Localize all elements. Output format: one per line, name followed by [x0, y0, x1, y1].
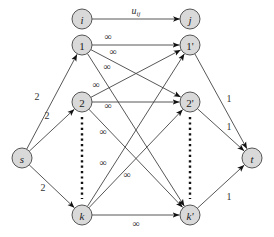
node-label: 2: [79, 97, 85, 109]
edge-label-s-2: 2: [45, 110, 50, 121]
node-label: 1: [79, 40, 85, 52]
edge-1p-t: [195, 54, 247, 149]
edges: 222∞∞∞∞∞∞∞∞∞111: [27, 31, 247, 229]
node-label: k': [186, 210, 194, 222]
edge-label-s-k: 2: [41, 182, 46, 193]
nodes: ij12k1'2'k'st: [12, 9, 262, 225]
edge-label-2-1p: ∞: [92, 79, 99, 90]
edge-s-2: [29, 109, 74, 151]
node-s: s: [12, 148, 32, 168]
edge-label-k-kp: ∞: [132, 218, 139, 229]
node-label: s: [20, 153, 24, 165]
legend-edge: uij: [92, 5, 180, 19]
edge-label-1-1p: ∞: [104, 31, 111, 42]
node-j: j: [180, 9, 200, 29]
edge-label-kp-t: 1: [227, 191, 232, 202]
node-t: t: [242, 148, 262, 168]
node-1: 1: [72, 35, 92, 55]
node-2: 2: [72, 92, 92, 112]
node-label: 1': [186, 40, 194, 52]
edge-label-1-kp: ∞: [103, 61, 110, 72]
edge-label-s-1: 2: [35, 91, 40, 102]
edge-label-1-2p: ∞: [109, 46, 116, 57]
edge-2p-t: [197, 109, 244, 151]
node-kp: k': [180, 205, 200, 225]
flow-network-diagram: uij 222∞∞∞∞∞∞∞∞∞111 ij12k1'2'k'st: [0, 0, 274, 237]
node-2p: 2': [180, 92, 200, 112]
node-label: 2': [186, 97, 194, 109]
legend-label: uij: [132, 5, 141, 18]
node-k: k: [72, 205, 92, 225]
edge-label-2p-t: 1: [227, 121, 232, 132]
node-i: i: [72, 9, 92, 29]
edge-label-2-2p: ∞: [104, 100, 111, 111]
edge-kp-t: [197, 165, 244, 208]
node-1p: 1': [180, 35, 200, 55]
node-label: i: [80, 14, 83, 26]
edge-s-k: [29, 165, 74, 208]
edge-label-1p-t: 1: [227, 93, 232, 104]
edge-label-2-kp: ∞: [99, 126, 106, 137]
edge-label-k-2p: ∞: [123, 169, 130, 180]
edge-label-k-1p: ∞: [99, 157, 106, 168]
